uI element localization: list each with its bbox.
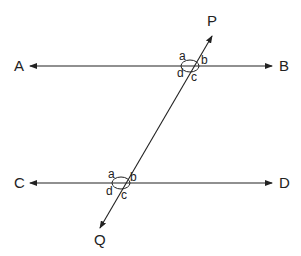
- upper-angle-b: b: [201, 53, 208, 67]
- label-c-point: C: [14, 174, 25, 191]
- label-a-point: A: [14, 57, 24, 74]
- lower-angle-d: d: [106, 184, 113, 198]
- label-p-point: P: [207, 12, 217, 29]
- lower-angle-c: c: [121, 188, 127, 202]
- diagram-canvas: A B C D P Q a b c d a b c d: [0, 0, 301, 256]
- upper-angle-c: c: [191, 70, 197, 84]
- upper-angle-d: d: [177, 66, 184, 80]
- lower-angle-a: a: [108, 167, 115, 181]
- label-q-point: Q: [94, 231, 106, 248]
- lower-angle-b: b: [130, 170, 137, 184]
- label-d-point: D: [279, 174, 290, 191]
- upper-angle-a: a: [179, 49, 186, 63]
- label-b-point: B: [279, 57, 289, 74]
- transversal-pq: [100, 36, 212, 228]
